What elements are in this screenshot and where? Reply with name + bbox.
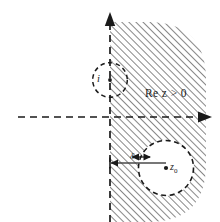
z0-label-subscript: 0	[174, 167, 178, 175]
delta-label: δ	[130, 152, 134, 161]
z0-point-dot	[164, 166, 168, 170]
z0-label: z0	[170, 162, 177, 175]
region-label: Re z > 0	[145, 88, 187, 100]
figure-canvas	[0, 0, 220, 222]
complex-plane-figure: Re z > 0 i δ z0	[0, 0, 220, 222]
i-point-dot	[108, 78, 112, 82]
i-label: i	[97, 74, 100, 85]
z0-neighbourhood-circle	[139, 141, 194, 196]
